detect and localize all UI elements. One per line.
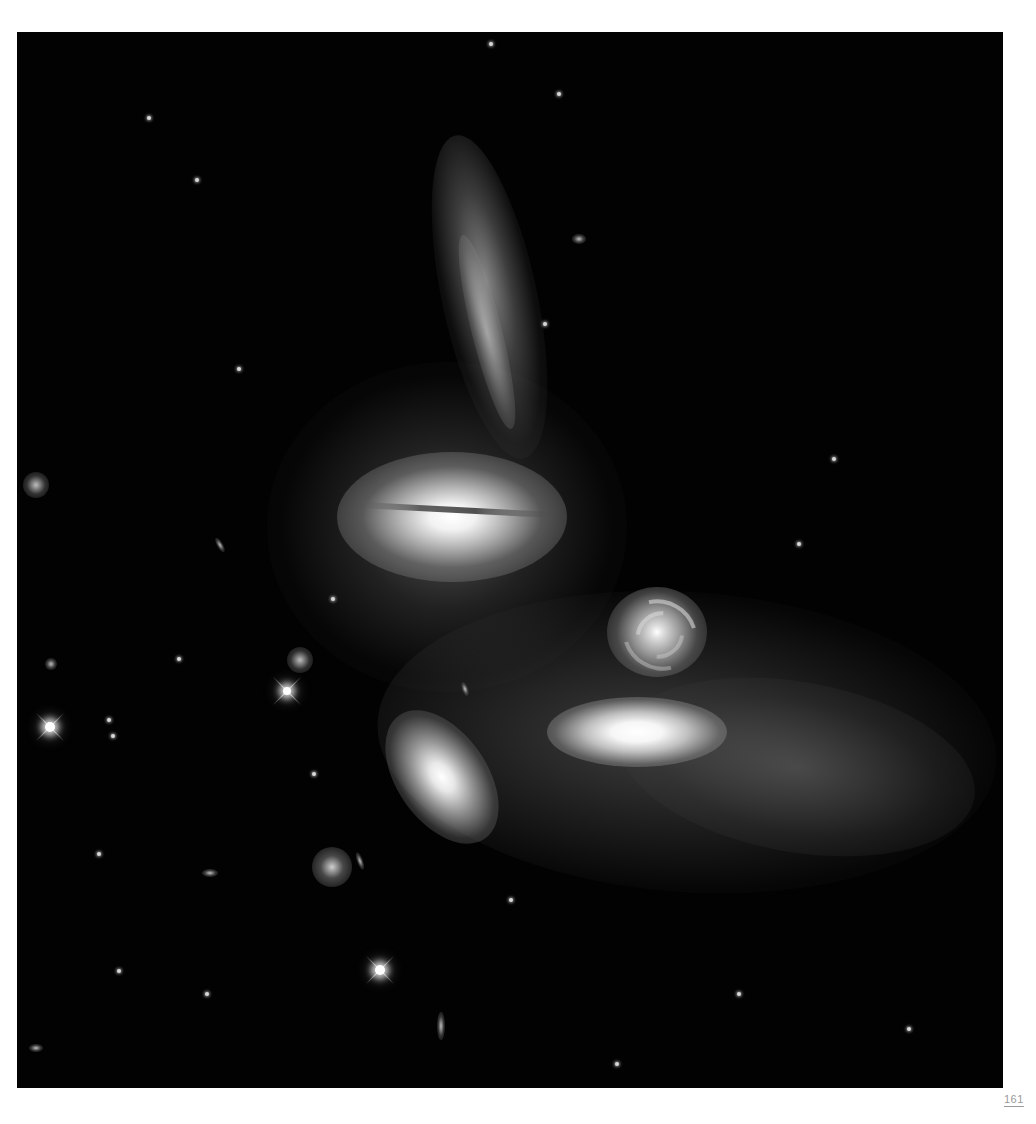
bright-star	[283, 687, 291, 695]
star	[557, 92, 561, 96]
galaxy-group-photograph	[17, 32, 1003, 1088]
star	[97, 852, 101, 856]
star	[111, 734, 115, 738]
elongated-elliptical-galaxy	[547, 697, 727, 767]
star	[907, 1027, 911, 1031]
background-galaxy	[354, 852, 366, 871]
background-galaxy	[213, 537, 226, 554]
star	[237, 367, 241, 371]
bright-star	[45, 722, 55, 732]
background-galaxy	[287, 647, 313, 673]
star	[177, 657, 181, 661]
background-galaxy	[202, 869, 218, 877]
star	[737, 992, 741, 996]
star	[331, 597, 335, 601]
star	[543, 322, 547, 326]
star	[489, 42, 493, 46]
star	[195, 178, 199, 182]
star	[509, 898, 513, 902]
background-galaxy	[572, 234, 586, 244]
star	[615, 1062, 619, 1066]
background-galaxy	[45, 658, 57, 670]
star	[107, 718, 111, 722]
background-galaxy	[23, 472, 49, 498]
star	[832, 457, 836, 461]
small-elliptical-galaxy	[312, 847, 352, 887]
star	[117, 969, 121, 973]
background-galaxy	[29, 1044, 43, 1052]
star	[797, 542, 801, 546]
page-number: 161	[1004, 1093, 1024, 1105]
star	[205, 992, 209, 996]
background-galaxy	[437, 1012, 445, 1040]
star	[147, 116, 151, 120]
star	[312, 772, 316, 776]
bright-star	[375, 965, 385, 975]
